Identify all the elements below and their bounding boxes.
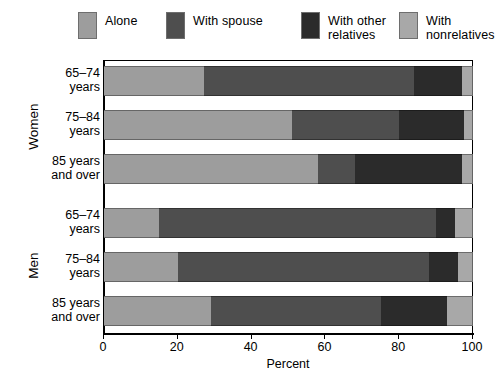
bar-segment [381, 296, 447, 326]
bar-segment [104, 296, 211, 326]
bar-row [104, 66, 473, 96]
x-axis-tick-label: 40 [244, 340, 258, 354]
bar-segment [462, 154, 473, 184]
bar-segment [292, 110, 399, 140]
legend-swatch-with-nonrelatives [399, 12, 418, 39]
plot-area: 020406080100 Percent [103, 60, 473, 334]
plot-border-right [472, 60, 473, 334]
x-axis-tick [324, 334, 325, 339]
x-axis-tick [177, 334, 178, 339]
x-axis-tick-label: 20 [170, 340, 184, 354]
legend-swatch-with-spouse [166, 12, 185, 39]
legend-label-with-nonrelatives: With nonrelatives [426, 11, 495, 42]
x-axis-tick-label: 0 [100, 340, 107, 354]
bar-row [104, 110, 473, 140]
group-labels: Women Men [0, 60, 26, 334]
bar-row [104, 208, 473, 238]
bar-row [104, 252, 473, 282]
category-label-women-65-74: 65–74 years [28, 67, 100, 94]
bar-segment [178, 252, 429, 282]
chart-legend: Alone With spouse With other relatives W… [78, 11, 482, 49]
bar-segment [458, 252, 473, 282]
category-label-men-75-84: 75–84 years [28, 253, 100, 280]
bar-row [104, 296, 473, 326]
x-axis-tick-label: 80 [391, 340, 405, 354]
bar-segment [104, 208, 159, 238]
category-labels: 65–74 years 75–84 years 85 years and ove… [24, 60, 100, 334]
bar-segment [159, 208, 436, 238]
x-axis-tick [398, 334, 399, 339]
legend-item-alone: Alone [78, 11, 166, 39]
bar-segment [464, 110, 473, 140]
x-axis-tick [103, 334, 104, 339]
bar-segment [429, 252, 459, 282]
category-label-men-65-74: 65–74 years [28, 209, 100, 236]
plot-border-top [103, 60, 473, 61]
bar-segment [104, 154, 318, 184]
bar-segment [318, 154, 355, 184]
bar-segment [436, 208, 454, 238]
x-axis-tick-label: 100 [462, 340, 483, 354]
bar-segment [211, 296, 381, 326]
bar-segment [104, 110, 292, 140]
legend-label-with-spouse: With spouse [193, 11, 263, 29]
category-label-women-75-84: 75–84 years [28, 111, 100, 138]
bar-segment [447, 296, 473, 326]
bar-row [104, 154, 473, 184]
legend-swatch-alone [78, 12, 97, 39]
x-axis-tick-label: 60 [317, 340, 331, 354]
x-axis-tick [251, 334, 252, 339]
category-label-women-85-plus: 85 years and over [28, 155, 100, 182]
legend-item-with-nonrelatives: With nonrelatives [399, 11, 482, 42]
legend-item-with-other-relatives: With other relatives [301, 11, 399, 42]
bar-segment [355, 154, 462, 184]
bar-segment [414, 66, 462, 96]
x-axis-title: Percent [103, 357, 473, 371]
y-axis-line [103, 60, 105, 334]
legend-swatch-with-other-relatives [301, 12, 320, 39]
legend-item-with-spouse: With spouse [166, 11, 301, 39]
legend-label-with-other-relatives: With other relatives [328, 11, 386, 42]
bar-segment [104, 66, 204, 96]
bar-segment [204, 66, 414, 96]
x-axis-tick [472, 334, 473, 339]
x-axis-line [103, 333, 474, 335]
legend-label-alone: Alone [105, 11, 137, 29]
bar-segment [455, 208, 473, 238]
bar-segment [462, 66, 473, 96]
bar-segment [104, 252, 178, 282]
category-label-men-85-plus: 85 years and over [28, 297, 100, 324]
bar-segment [399, 110, 464, 140]
